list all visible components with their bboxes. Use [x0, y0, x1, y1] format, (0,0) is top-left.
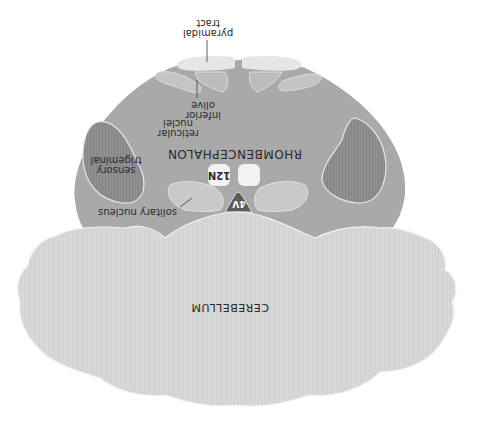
inferior-olive-label: inferior olive	[178, 100, 228, 120]
diagram-canvas	[0, 0, 479, 425]
pyramidal-tract-left	[177, 56, 235, 71]
pyramidal-tract-label: pyramidal tract	[178, 18, 238, 38]
solitary-nucleus-label: solitary nucleus	[95, 207, 180, 217]
cerebellum-label: CEREBELLUM	[185, 301, 275, 313]
rhombencephalon-label: RHOMBENCEPHALON	[172, 148, 302, 160]
fourth-ventricle-label: 4V	[228, 199, 250, 209]
nucleus-12n-right	[238, 164, 260, 186]
brain-section-diagram: pyramidal tract inferior olive reticular…	[0, 0, 479, 425]
pyramidal-tract-right	[242, 56, 301, 71]
nucleus-12n-label: 12N	[206, 170, 232, 180]
sensory-trigeminal-label: sensory trigeminal	[88, 155, 144, 175]
reticular-nuclei-label: reticular nuclei	[148, 118, 208, 138]
